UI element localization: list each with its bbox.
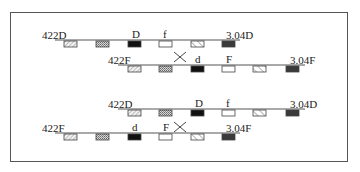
gene-label: f (226, 98, 230, 109)
gene-marker-white (159, 41, 172, 47)
diagram-canvas (0, 0, 360, 172)
gene-marker-diag-light (64, 41, 77, 47)
gene-marker-white (159, 134, 172, 140)
gene-marker-dark (286, 110, 299, 116)
gene-marker-diag-light (64, 134, 77, 140)
gene-marker-black (191, 110, 204, 116)
gene-label: D (132, 29, 140, 40)
gene-marker-crosshatch (96, 134, 109, 140)
gene-marker-diag-light (128, 110, 141, 116)
strain-label-right: 3.04F (290, 55, 315, 66)
strain-label-left: 422D (108, 99, 132, 110)
gene-marker-dark (286, 66, 299, 72)
gene-marker-black (191, 66, 204, 72)
chromosome-row2 (118, 65, 305, 72)
gene-label: f (163, 29, 167, 40)
strain-label-right: 3.04D (290, 99, 317, 110)
chromosome-row3 (118, 109, 305, 116)
strain-label-right: 3.04D (226, 30, 253, 41)
gene-marker-dark (222, 134, 235, 140)
gene-marker-crosshatch (96, 41, 109, 47)
gene-marker-diag-back (191, 41, 204, 47)
gene-marker-black (128, 134, 141, 140)
strain-label-left: 422F (42, 123, 65, 134)
strain-label-left: 422F (108, 55, 131, 66)
strain-label-right: 3.04F (226, 123, 251, 134)
gene-label: F (163, 122, 169, 133)
gene-marker-dark (222, 41, 235, 47)
crossover-icon (174, 52, 186, 62)
chromosome-row1 (55, 40, 240, 47)
gene-label: d (195, 54, 201, 65)
gene-marker-diag-back (191, 134, 204, 140)
gene-label: D (195, 98, 203, 109)
gene-marker-diag-light (128, 66, 141, 72)
crossover-icon (174, 122, 186, 132)
gene-marker-diag-back (253, 66, 266, 72)
gene-marker-white (222, 110, 235, 116)
gene-marker-black (128, 41, 141, 47)
gene-label: F (226, 54, 232, 65)
gene-marker-white (222, 66, 235, 72)
gene-marker-crosshatch (159, 110, 172, 116)
gene-label: d (132, 122, 138, 133)
gene-marker-diag-back (253, 110, 266, 116)
chromosome-row4 (55, 133, 240, 140)
gene-marker-crosshatch (159, 66, 172, 72)
strain-label-left: 422D (42, 30, 66, 41)
